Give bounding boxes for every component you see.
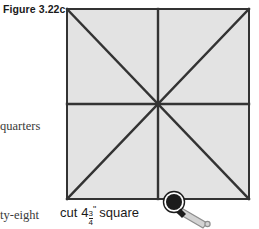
margin-text-fragment-quarters: quarters xyxy=(0,119,40,134)
caption-whole-number: 4 xyxy=(81,205,88,220)
caption-verb: cut xyxy=(60,205,77,220)
caption-noun: square xyxy=(99,205,139,220)
cursor-handle xyxy=(174,206,207,228)
figure-label: Figure 3.22c xyxy=(3,3,65,15)
figure-page: Figure 3.22c quarters ty-eight cut434"sq… xyxy=(0,0,259,229)
inch-mark: " xyxy=(93,204,96,214)
cursor-handle-end xyxy=(205,221,210,226)
square-diagram xyxy=(66,8,250,200)
cursor-neck xyxy=(177,209,187,219)
fraction-denominator: 4 xyxy=(89,219,93,227)
margin-text-fragment-twenty-eight: ty-eight xyxy=(0,208,39,223)
figure-caption: cut434"square xyxy=(60,205,139,228)
